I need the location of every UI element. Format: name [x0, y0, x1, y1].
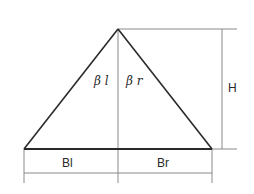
- angle-right-label: β r: [125, 74, 144, 88]
- base-right-label: Br: [157, 156, 169, 170]
- base-left-label: Bl: [62, 156, 73, 170]
- right-side: [118, 29, 212, 149]
- angle-left-label: β l: [93, 74, 109, 88]
- triangle-diagram: β l β r H Bl Br: [0, 0, 254, 194]
- height-label: H: [228, 81, 237, 95]
- dimension-lines: [24, 29, 237, 183]
- left-side: [24, 29, 118, 149]
